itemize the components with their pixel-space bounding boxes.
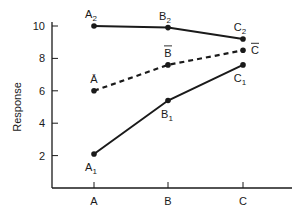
data-point <box>165 98 171 104</box>
point-label: C1 <box>234 72 247 87</box>
point-label: A2 <box>85 8 97 23</box>
data-point <box>240 62 246 68</box>
y-tick-label: 10 <box>33 20 45 32</box>
data-point <box>240 36 246 42</box>
point-label-text: C <box>251 44 259 56</box>
point-label: A1 <box>85 161 97 176</box>
series-line-1 <box>94 65 243 154</box>
point-label: C <box>251 43 259 56</box>
point-label: C2 <box>234 21 247 36</box>
y-tick-label: 2 <box>39 150 45 162</box>
point-label-text: Ā <box>90 73 98 85</box>
point-label: Ā <box>90 73 98 85</box>
point-label-text: C1 <box>234 72 247 87</box>
y-axis-label: Response <box>11 82 23 132</box>
point-labels: A2B2C2ĀBCA1B1C1 <box>85 8 259 176</box>
x-tick-label: A <box>90 195 98 207</box>
point-label-text: A2 <box>85 8 97 23</box>
point-label: B2 <box>159 10 171 25</box>
point-label: B <box>164 46 172 59</box>
y-tick-label: 6 <box>39 85 45 97</box>
data-point <box>240 48 246 54</box>
data-point <box>165 62 171 68</box>
point-label-text: A1 <box>85 161 97 176</box>
data-point <box>91 151 97 157</box>
data-point <box>165 25 171 31</box>
point-label-text: B1 <box>161 108 173 123</box>
point-label-text: C2 <box>234 21 247 36</box>
point-label-text: B2 <box>159 10 171 25</box>
series-group <box>91 23 246 157</box>
interaction-line-chart: 246810ABC A2B2C2ĀBCA1B1C1 Response <box>0 0 297 217</box>
y-tick-label: 8 <box>39 52 45 64</box>
data-point <box>91 88 97 94</box>
x-tick-label: C <box>239 195 247 207</box>
y-tick-label: 4 <box>39 117 45 129</box>
data-point <box>91 23 97 29</box>
point-label-text: B <box>164 47 171 59</box>
point-label: B1 <box>161 108 173 123</box>
x-tick-label: B <box>164 195 171 207</box>
